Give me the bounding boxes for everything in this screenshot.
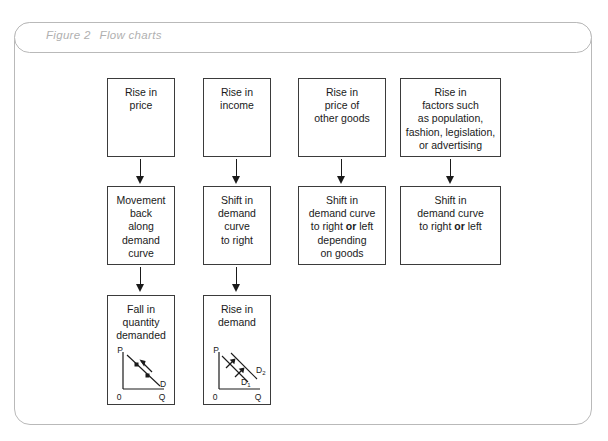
arrow-head-icon: [136, 176, 144, 184]
arrow-head-icon: [232, 176, 240, 184]
arrow-head-icon: [446, 176, 454, 184]
axis-label-origin: 0: [213, 392, 218, 402]
box-rise-in-factors: Rise infactors suchas population,fashion…: [400, 78, 501, 157]
figure-page: Figure 2Flow charts Rise inprice Rise in…: [0, 0, 608, 441]
axis-label-origin: 0: [117, 392, 122, 402]
box-text: Shift indemandcurveto right: [204, 194, 270, 247]
movement-arrow-up-left: [140, 360, 153, 373]
marker-point-upper: [135, 363, 139, 367]
axis-label-Q: Q: [159, 392, 166, 402]
box-movement-along-curve: Movementbackalongdemandcurve: [107, 186, 175, 265]
figure-title-text: Flow charts: [100, 29, 162, 41]
chart-rise-in-demand: P Q 0 D2 D1: [206, 346, 268, 402]
box-text: Movementbackalongdemandcurve: [108, 194, 174, 260]
box-text: Shift indemand curveto right or left: [401, 194, 500, 234]
box-shift-demand-depending-on-goods: Shift indemand curveto right or leftdepe…: [298, 186, 386, 265]
axis-label-P: P: [213, 346, 219, 355]
shift-arrow-upper: [226, 359, 236, 369]
arrow-head-icon: [136, 284, 144, 292]
box-text: Rise inprice ofother goods: [299, 86, 385, 126]
chart-fall-in-quantity-demanded: P Q 0 D: [110, 346, 172, 402]
demand-curve-D2: [231, 353, 257, 379]
figure-caption: Figure 2Flow charts: [46, 29, 162, 41]
curve-label-D1: D1: [241, 377, 251, 388]
box-text: Rise inprice: [108, 86, 174, 112]
box-text: Fall inquantitydemanded: [108, 303, 174, 343]
box-text: Shift indemand curveto right or leftdepe…: [299, 194, 385, 260]
box-text: Rise inincome: [204, 86, 270, 112]
arrow-head-icon: [337, 176, 345, 184]
curve-label-D: D: [160, 379, 166, 389]
axis-label-Q: Q: [255, 392, 262, 402]
axis-label-P: P: [117, 346, 123, 355]
shift-arrow-lower: [235, 368, 245, 378]
box-text: Rise infactors suchas population,fashion…: [401, 86, 500, 152]
box-rise-in-price: Rise inprice: [107, 78, 175, 157]
figure-number: Figure 2: [46, 29, 91, 41]
marker-point-lower: [146, 374, 150, 378]
box-rise-in-price-of-other-goods: Rise inprice ofother goods: [298, 78, 386, 157]
arrow-head-icon: [232, 284, 240, 292]
curve-label-D2: D2: [256, 365, 266, 376]
box-shift-demand-right: Shift indemandcurveto right: [203, 186, 271, 265]
box-rise-in-income: Rise inincome: [203, 78, 271, 157]
box-shift-demand-right-or-left: Shift indemand curveto right or left: [400, 186, 501, 265]
demand-curve-D: [127, 355, 160, 386]
box-text: Rise indemand: [204, 303, 270, 329]
